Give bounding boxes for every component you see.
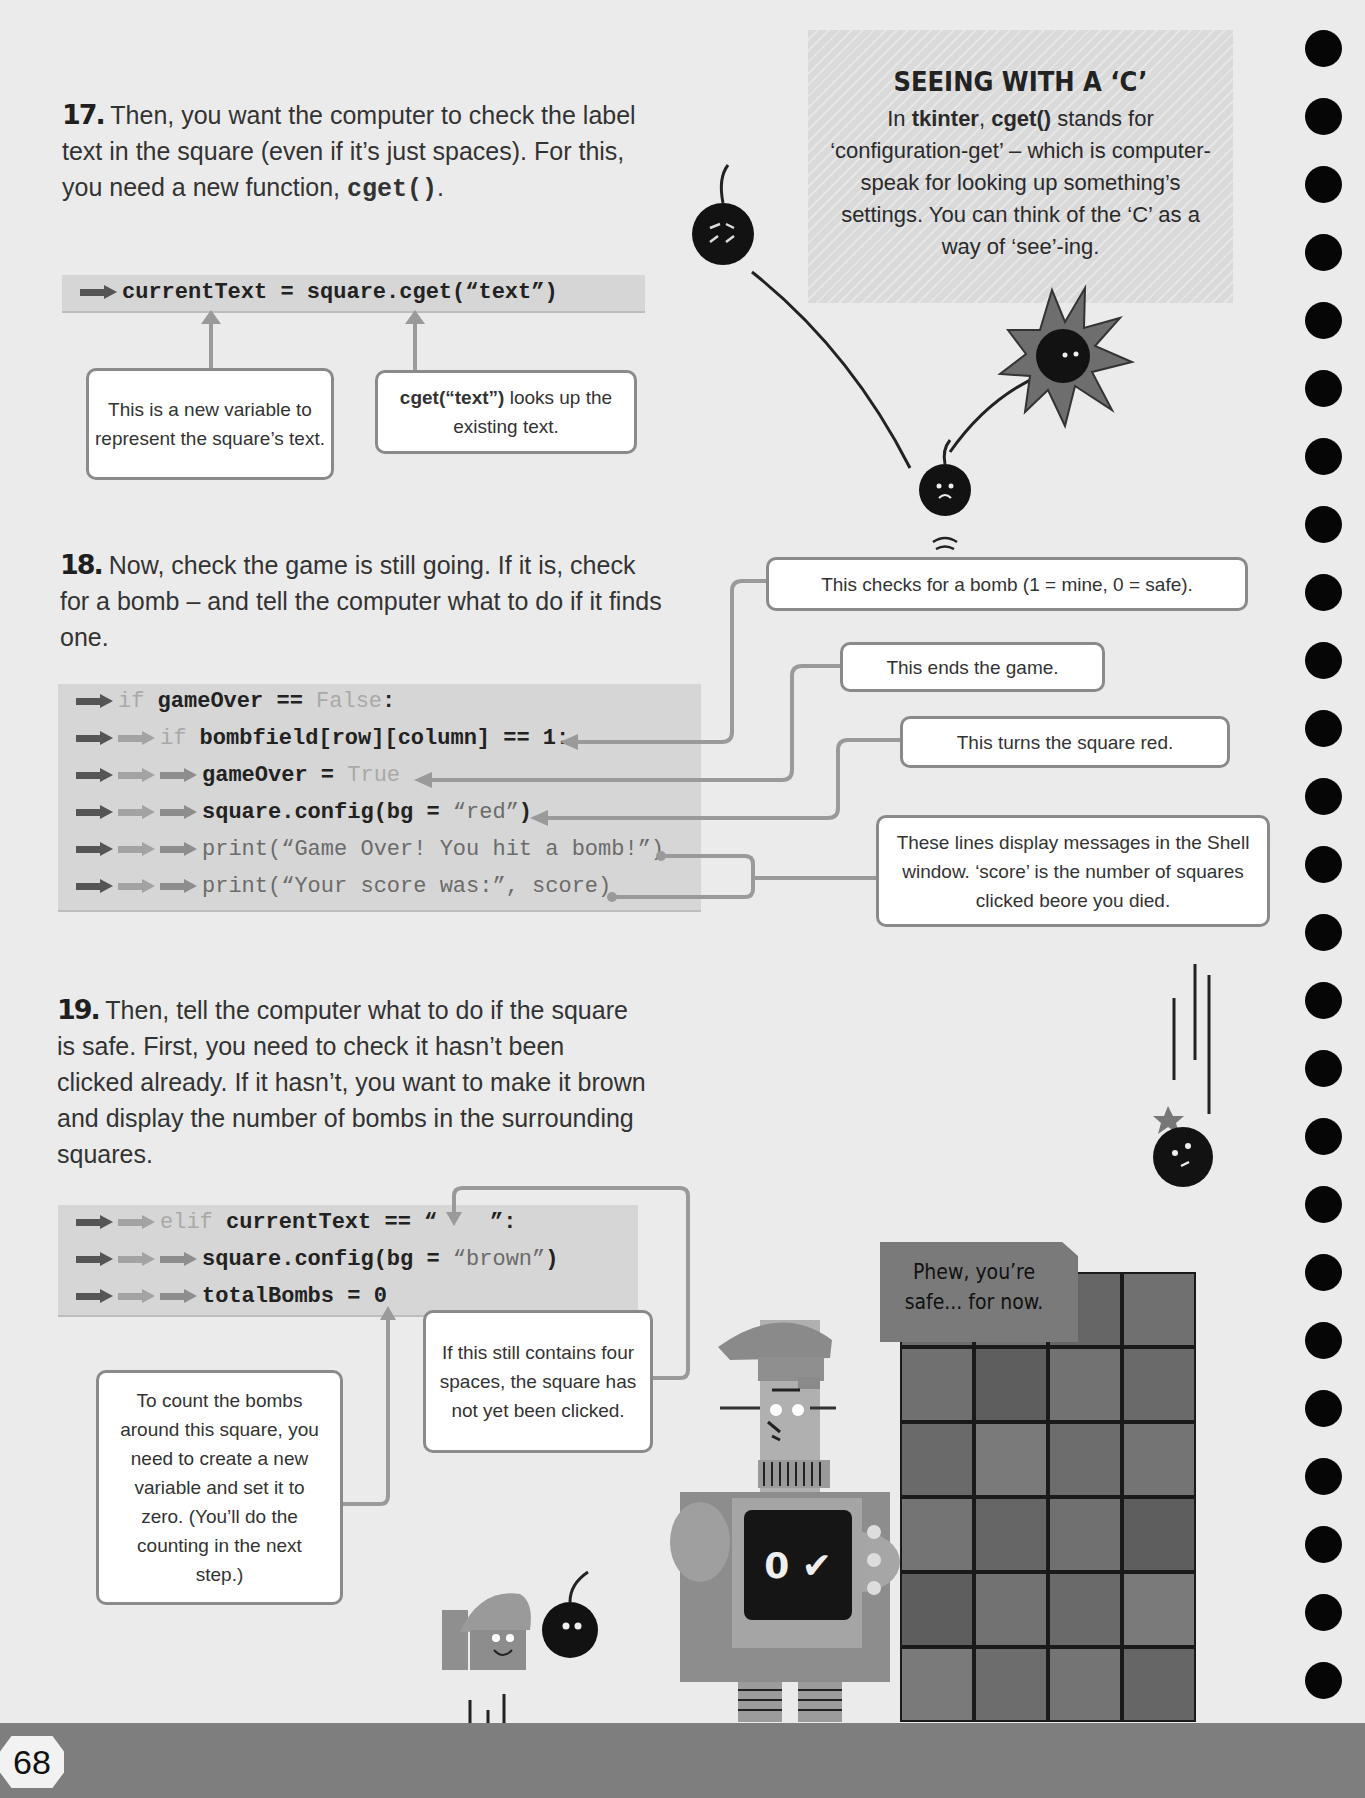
- grid-cell: [1122, 1647, 1196, 1722]
- grid-cell: [974, 1347, 1048, 1422]
- grid-cell: [1122, 1572, 1196, 1647]
- grid-cell: [1048, 1347, 1122, 1422]
- grid-cell: [1122, 1422, 1196, 1497]
- grid-cell: [1048, 1572, 1122, 1647]
- soldier-robot-illustration: 0 ✔: [660, 1262, 940, 1724]
- grid-cell: [974, 1647, 1048, 1722]
- grid-cell: [974, 1422, 1048, 1497]
- grid-cell: [974, 1572, 1048, 1647]
- callout-count-bombs: To count the bombs around this square, y…: [96, 1370, 343, 1605]
- grid-cell: [1048, 1497, 1122, 1572]
- callout-four-spaces: If this still contains four spaces, the …: [423, 1310, 653, 1453]
- grid-cell: [1048, 1647, 1122, 1722]
- grid-cell: [1122, 1497, 1196, 1572]
- grid-cell: [974, 1497, 1048, 1572]
- grid-cell: [1122, 1272, 1196, 1347]
- page-footer-band: [0, 1723, 1365, 1798]
- grid-cell: [1122, 1347, 1196, 1422]
- page-number: 68: [0, 1736, 64, 1788]
- grid-cell: [1048, 1422, 1122, 1497]
- svg-text:0 ✔: 0 ✔: [764, 1545, 832, 1586]
